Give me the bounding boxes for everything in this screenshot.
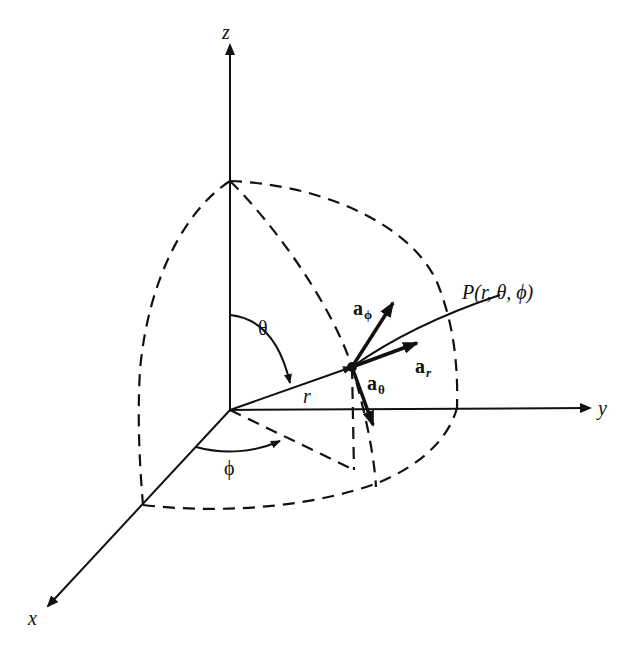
y-axis xyxy=(230,408,590,410)
r-vector xyxy=(230,367,352,410)
r-label: r xyxy=(303,386,311,406)
theta-label: θ xyxy=(258,318,268,338)
spherical-coordinates-diagram: z y x θ ϕ r P(r, θ, ϕ) aϕ ar aθ xyxy=(0,0,626,646)
axes xyxy=(48,45,590,606)
a-r-label: ar xyxy=(415,356,431,376)
z-axis-label: z xyxy=(222,22,230,42)
point-p-label: P(r, θ, ϕ) xyxy=(462,282,533,302)
x-axis-label: x xyxy=(28,608,37,628)
phi-arc xyxy=(196,441,280,452)
a-theta-label: aθ xyxy=(367,373,385,393)
phi-label: ϕ xyxy=(224,458,235,478)
diagram-canvas xyxy=(0,0,626,646)
point-p-dot xyxy=(347,362,357,372)
a-phi-label: aϕ xyxy=(353,298,372,318)
y-axis-label: y xyxy=(598,398,607,418)
